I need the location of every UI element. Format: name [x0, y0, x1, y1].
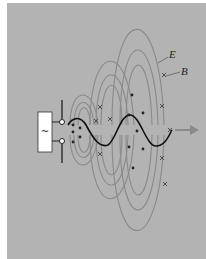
oscillator-source: ~	[38, 100, 65, 163]
ac-source-icon: ~	[41, 126, 49, 137]
e-label-leader	[158, 57, 168, 63]
e-field-label: E	[168, 48, 176, 60]
b-label-leader	[166, 72, 180, 76]
b-field-label: B	[181, 65, 188, 77]
electric-field-lines-lower	[70, 135, 164, 231]
em-wave-diagram: ~ E	[0, 0, 206, 259]
electric-field-lines-upper	[70, 29, 164, 125]
propagation-arrow	[175, 125, 199, 135]
b-field-dots	[72, 94, 145, 170]
